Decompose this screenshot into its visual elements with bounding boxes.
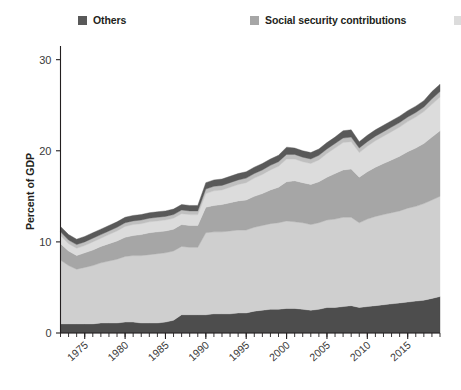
chart-plot-area: 0102030197519801985199019952000200520102… — [0, 0, 461, 390]
y-tick-label-0: 0 — [45, 327, 51, 339]
x-tick-label-2005: 2005 — [307, 338, 333, 363]
y-tick-label-10: 10 — [39, 236, 51, 248]
tax-revenue-stacked-area-chart: OthersSocial security contributionsCorpo… — [0, 0, 461, 390]
y-tick-label-20: 20 — [39, 145, 51, 157]
x-tick-label-1985: 1985 — [145, 338, 171, 363]
x-tick-label-1980: 1980 — [105, 338, 131, 363]
x-tick-label-1990: 1990 — [186, 338, 212, 363]
x-tick-label-1995: 1995 — [226, 338, 252, 363]
x-tick-label-1975: 1975 — [65, 338, 91, 363]
y-tick-label-30: 30 — [39, 54, 51, 66]
x-tick-label-2010: 2010 — [347, 338, 373, 363]
x-tick-label-2000: 2000 — [267, 338, 293, 363]
x-tick-label-2015: 2015 — [388, 338, 414, 363]
